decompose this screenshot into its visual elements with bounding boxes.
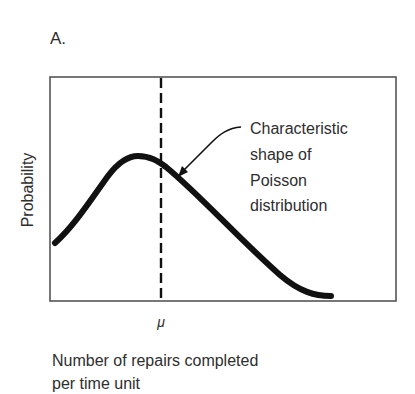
mean-label: μ — [156, 314, 165, 330]
annotation-arrow — [182, 127, 241, 172]
poisson-diagram: A. Characteristic shape of Poisson distr… — [0, 0, 415, 394]
y-axis-label: Probability — [19, 153, 36, 228]
x-axis-label-line-1: Number of repairs completed — [52, 352, 258, 369]
annotation-line-4: distribution — [250, 197, 327, 214]
x-axis-label-line-2: per time unit — [52, 375, 141, 392]
annotation-line-2: shape of — [250, 146, 312, 163]
panel-label: A. — [50, 29, 66, 48]
annotation-line-1: Characteristic — [250, 120, 348, 137]
annotation-line-3: Poisson — [250, 172, 307, 189]
